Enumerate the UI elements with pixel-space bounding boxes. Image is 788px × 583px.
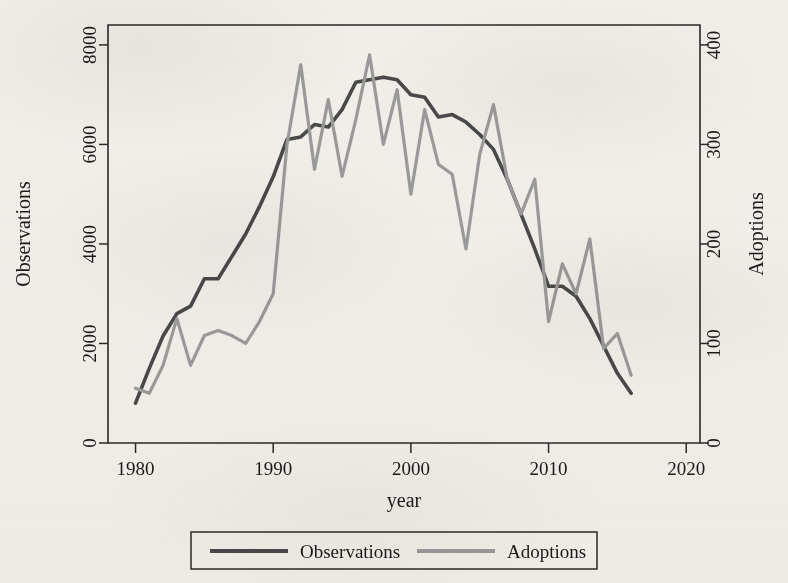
series-line-observations — [136, 77, 632, 403]
y-axis-left-title: Observations — [12, 181, 34, 287]
y2-tick-label: 400 — [703, 31, 724, 60]
y-axis-left-ticks: 02000400060008000 — [79, 26, 108, 448]
chart-figure: 02000400060008000 0100200300400 19801990… — [0, 0, 788, 583]
x-axis-title: year — [387, 489, 422, 512]
x-tick-label: 2000 — [392, 458, 430, 479]
y2-tick-label: 300 — [703, 130, 724, 159]
y-tick-label: 4000 — [79, 225, 100, 263]
y-axis-right-title: Adoptions — [745, 192, 768, 276]
x-tick-label: 2020 — [667, 458, 705, 479]
y-axis-right-ticks: 0100200300400 — [700, 31, 724, 448]
series-line-adoptions — [136, 55, 632, 393]
line-chart: 02000400060008000 0100200300400 19801990… — [0, 0, 788, 583]
y-tick-label: 0 — [79, 438, 100, 448]
chart-legend: Observations Adoptions — [191, 532, 597, 569]
y-tick-label: 8000 — [79, 26, 100, 64]
series-group — [136, 55, 632, 403]
x-axis-ticks: 19801990200020102020 — [117, 443, 706, 479]
x-tick-label: 2010 — [530, 458, 568, 479]
y-tick-label: 6000 — [79, 125, 100, 163]
legend-label-adoptions: Adoptions — [507, 541, 586, 562]
y2-tick-label: 200 — [703, 230, 724, 259]
y-tick-label: 2000 — [79, 324, 100, 362]
y2-tick-label: 0 — [703, 438, 724, 448]
legend-label-observations: Observations — [300, 541, 400, 562]
y2-tick-label: 100 — [703, 329, 724, 358]
x-tick-label: 1980 — [117, 458, 155, 479]
x-tick-label: 1990 — [254, 458, 292, 479]
